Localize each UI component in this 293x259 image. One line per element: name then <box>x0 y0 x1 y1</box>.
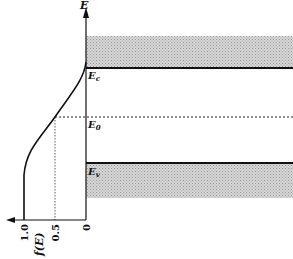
tick-0-5: 0.5 <box>50 224 61 241</box>
tick-0: 0 <box>81 224 92 231</box>
ec-label: Ec <box>87 70 101 83</box>
e0-label: E0 <box>87 119 101 132</box>
tick-1-0: 1.0 <box>19 224 30 241</box>
fe-axis-label: f(E) <box>33 232 46 257</box>
conduction-band <box>86 36 293 68</box>
valence-band <box>86 163 293 198</box>
energy-axis-label: E <box>79 0 89 12</box>
fe-axis-arrow-icon <box>6 217 15 223</box>
band-diagram: E Ec E0 Ev 1.0 0.5 0 f(E) <box>0 0 293 259</box>
